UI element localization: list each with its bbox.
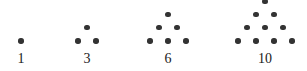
dot (253, 12, 258, 17)
dot (262, 0, 267, 4)
triangular-numbers-figure: 13610 (0, 0, 307, 71)
dot (280, 25, 285, 30)
dot (271, 38, 276, 43)
dot (289, 38, 294, 43)
dot-group-10: 10 (0, 0, 307, 71)
dot (253, 38, 258, 43)
dot (235, 38, 240, 43)
dot (244, 25, 249, 30)
dot (262, 25, 267, 30)
dot (271, 12, 276, 17)
dot-group-label-10: 10 (258, 52, 272, 66)
